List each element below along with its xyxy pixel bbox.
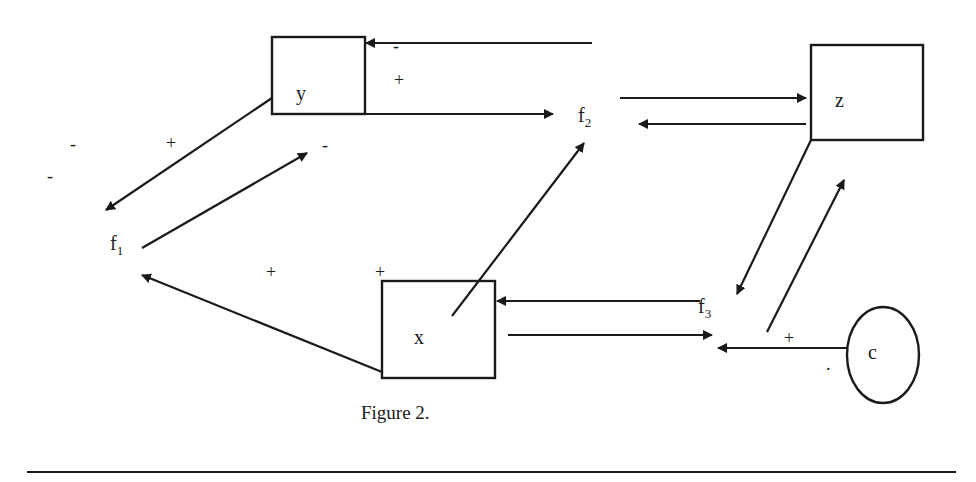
edge-y-to-f1 bbox=[106, 98, 272, 210]
edge-x-to-f2 bbox=[452, 143, 584, 316]
node-c-label: c bbox=[868, 341, 877, 363]
figure-2-diagram: y z x c f1 f2 f3 - + - - + - + + + . Fig… bbox=[0, 0, 976, 482]
node-z-box bbox=[811, 45, 923, 140]
sign-c-plus: + bbox=[784, 328, 794, 348]
sign-f1-y-plus: + bbox=[166, 133, 176, 153]
sign-x-f1-plus-1: + bbox=[266, 262, 276, 282]
sign-f1-left-minus-2: - bbox=[47, 166, 53, 186]
node-f2-label: f2 bbox=[578, 104, 591, 130]
sign-c-dot: . bbox=[826, 354, 831, 374]
node-x-label: x bbox=[414, 326, 424, 348]
sign-y-top-minus: - bbox=[393, 36, 399, 56]
node-c-ellipse bbox=[847, 307, 919, 403]
figure-caption: Figure 2. bbox=[361, 402, 430, 423]
node-y-label: y bbox=[296, 82, 306, 105]
node-z-label: z bbox=[835, 89, 844, 111]
edge-f3-to-z bbox=[767, 180, 844, 332]
edge-x-to-f1 bbox=[142, 275, 382, 372]
edge-f1-to-y bbox=[142, 153, 307, 248]
sign-x-f1-plus-2: + bbox=[375, 262, 385, 282]
edge-z-to-f3 bbox=[737, 140, 811, 294]
node-f1-label: f1 bbox=[110, 232, 123, 258]
sign-y-top-plus: + bbox=[394, 70, 404, 90]
sign-f1-y-minus: - bbox=[322, 135, 328, 155]
sign-f1-left-minus-1: - bbox=[70, 134, 76, 154]
node-f3-label: f3 bbox=[698, 295, 711, 321]
node-x-box bbox=[382, 281, 495, 378]
node-y-box bbox=[272, 37, 365, 114]
